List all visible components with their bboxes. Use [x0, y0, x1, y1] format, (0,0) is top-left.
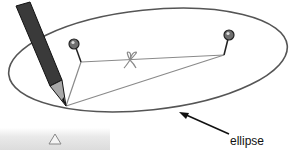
- up-triangle-icon: [48, 133, 62, 145]
- ellipse-label: ellipse: [230, 134, 264, 148]
- arrow-to-ellipse: [179, 112, 229, 134]
- pin-right-icon: [224, 30, 234, 55]
- pin-left-icon: [69, 39, 81, 62]
- pencil-icon: [16, 2, 66, 106]
- scroll-button[interactable]: [0, 128, 110, 150]
- string-loop: [66, 52, 224, 106]
